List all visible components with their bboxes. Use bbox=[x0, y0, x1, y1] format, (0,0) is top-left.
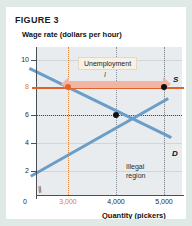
y-axis-title: Wage rate (dollars per hour) bbox=[22, 30, 122, 39]
figure-card: FIGURE 3 Wage rate (dollars per hour) 10… bbox=[6, 7, 186, 219]
x-axis bbox=[36, 195, 184, 196]
y-axis bbox=[36, 47, 37, 199]
dropline-5000 bbox=[164, 47, 165, 195]
y-tick-label-2: 2 bbox=[13, 167, 29, 174]
unemployment-label: Unemployment bbox=[78, 57, 137, 70]
point-equilibrium bbox=[113, 112, 119, 118]
illegal-region-line2: region bbox=[126, 171, 145, 180]
y-tick-4 bbox=[31, 143, 37, 144]
y-tick-6 bbox=[31, 115, 37, 116]
y-tick-label-4: 4 bbox=[13, 139, 29, 146]
gridline-4 bbox=[36, 143, 182, 144]
origin-label: 0 bbox=[23, 198, 27, 205]
point-quantity-demanded bbox=[65, 84, 71, 90]
supply-curve bbox=[30, 97, 169, 177]
y-tick-2 bbox=[31, 171, 37, 172]
x-tick-label-5000: 5,000 bbox=[148, 198, 180, 205]
figure-number: FIGURE 3 bbox=[15, 15, 59, 25]
y-tick-label-10: 10 bbox=[13, 56, 29, 63]
x-tick-label-4000: 4,000 bbox=[100, 198, 132, 205]
y-tick-label-6: 6 bbox=[13, 111, 29, 118]
dropline-3000 bbox=[68, 47, 69, 195]
y-tick-label-8: 8 bbox=[13, 83, 29, 90]
unemployment-pointer: I bbox=[104, 71, 106, 78]
dropline-wage-6 bbox=[36, 115, 182, 116]
y-tick-10 bbox=[31, 60, 37, 61]
gridline-2 bbox=[36, 171, 182, 172]
supply-curve-label: S bbox=[173, 75, 178, 84]
unemployment-arrow-band bbox=[68, 81, 164, 88]
demand-curve bbox=[29, 67, 172, 139]
demand-curve-label: D bbox=[172, 149, 178, 158]
point-quantity-supplied bbox=[161, 84, 167, 90]
x-tick-label-3000: 3,000 bbox=[52, 198, 84, 205]
x-axis-title: Quantity (pickers) bbox=[102, 211, 166, 219]
illegal-region-label: Illegal region bbox=[126, 162, 145, 180]
illegal-region-line1: Illegal bbox=[126, 162, 145, 171]
